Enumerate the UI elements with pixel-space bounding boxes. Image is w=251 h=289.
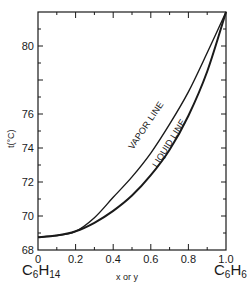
x-tick-label: 0.4	[106, 253, 121, 265]
y-axis-title: t(°C)	[6, 129, 16, 148]
x-tick-label: 0.2	[68, 253, 83, 265]
phase-diagram-chart: 687072747680 00.20.40.60.81.0 VAPOR LINE…	[0, 0, 251, 289]
y-tick-label: 68	[22, 244, 34, 256]
y-axis-tick-labels: 687072747680	[22, 40, 34, 256]
y-tick-label: 80	[22, 40, 34, 52]
x-axis-ticks-top	[57, 12, 207, 18]
x-axis-tick-labels: 00.20.40.60.81.0	[35, 253, 234, 265]
y-tick-label: 72	[22, 176, 34, 188]
x-axis-title: x or y	[116, 272, 139, 282]
vapor-line-curve	[38, 12, 226, 237]
x-tick-label: 0.8	[181, 253, 196, 265]
x-tick-label: 0.6	[143, 253, 158, 265]
x-axis-ticks	[57, 244, 207, 250]
y-axis-ticks	[38, 29, 43, 233]
hexane-label: C6H14	[22, 261, 61, 280]
y-axis-ticks-right	[221, 29, 226, 233]
benzene-label: C6H6	[214, 261, 247, 280]
plot-frame	[38, 12, 226, 250]
y-tick-label: 70	[22, 210, 34, 222]
y-tick-label: 74	[22, 142, 34, 154]
y-tick-label: 76	[22, 108, 34, 120]
liquid-line-curve	[38, 12, 226, 237]
vapor-line-label: VAPOR LINE	[126, 100, 165, 151]
